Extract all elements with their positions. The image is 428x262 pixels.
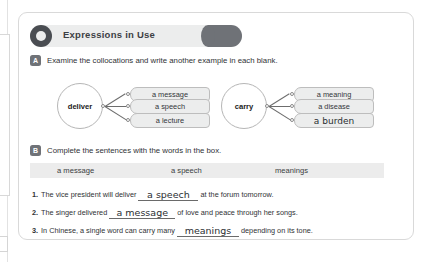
word-bank-item[interactable]: a message <box>57 166 94 175</box>
section-header: Expressions in Use <box>30 25 242 47</box>
answer-blank[interactable]: meanings <box>177 225 239 237</box>
connector-line <box>269 106 290 107</box>
collocation-diagram-carry: carry a meaning a disease a burden <box>221 73 401 139</box>
section-a-instruction: Examine the collocations and write anoth… <box>47 56 278 65</box>
connector-line <box>105 106 126 107</box>
collocation-tag[interactable]: a disease <box>294 99 374 114</box>
verb-label: deliver <box>57 102 103 111</box>
page-margin-artifact-top <box>0 34 10 196</box>
sentence-number: 3. <box>32 226 38 235</box>
sentence-text-after: at the forum tomorrow. <box>200 190 273 199</box>
page-title: Expressions in Use <box>63 29 155 40</box>
worksheet-card: Expressions in Use A Examine the colloca… <box>18 12 414 240</box>
worksheet-page: Expressions in Use A Examine the colloca… <box>0 0 428 262</box>
connector-line <box>105 106 128 121</box>
word-bank-item[interactable]: meanings <box>275 166 308 175</box>
section-marker-b: B <box>30 145 41 156</box>
header-pill-cap <box>208 25 242 47</box>
answer-blank[interactable]: a speech <box>138 189 198 201</box>
collocation-tag[interactable]: a speech <box>130 99 210 114</box>
sentence-text-before: The vice president will deliver <box>41 190 136 199</box>
sentence-number: 2. <box>32 208 38 217</box>
word-bank: a message a speech meanings <box>30 163 384 178</box>
sentence-item: 1.The vice president will deliver a spee… <box>32 189 273 201</box>
sentence-text-after: depending on its tone. <box>241 226 313 235</box>
word-bank-item[interactable]: a speech <box>171 166 202 175</box>
collocation-diagram-deliver: deliver a message a speech a lecture <box>57 73 227 139</box>
ring-icon <box>30 25 52 47</box>
verb-label: carry <box>221 102 267 111</box>
section-b-instruction: Complete the sentences with the words in… <box>47 146 221 155</box>
sentence-text-before: The singer delivered <box>41 208 107 217</box>
connector-line <box>269 106 292 121</box>
sentence-item: 2.The singer delivered a message of love… <box>32 207 298 219</box>
sentence-text-after: of love and peace through her songs. <box>177 208 297 217</box>
sentence-number: 1. <box>32 190 38 199</box>
sentence-item: 3.In Chinese, a single word can carry ma… <box>32 225 313 237</box>
section-marker-a: A <box>30 55 41 66</box>
connector-line <box>269 93 290 107</box>
sentence-text-before: In Chinese, a single word can carry many <box>41 226 175 235</box>
answer-blank[interactable]: a message <box>109 207 175 219</box>
collocation-tag-answer[interactable]: a burden <box>294 113 374 128</box>
collocation-tag[interactable]: a lecture <box>130 113 210 128</box>
connector-line <box>105 93 126 107</box>
page-margin-artifact-bottom <box>0 236 8 252</box>
